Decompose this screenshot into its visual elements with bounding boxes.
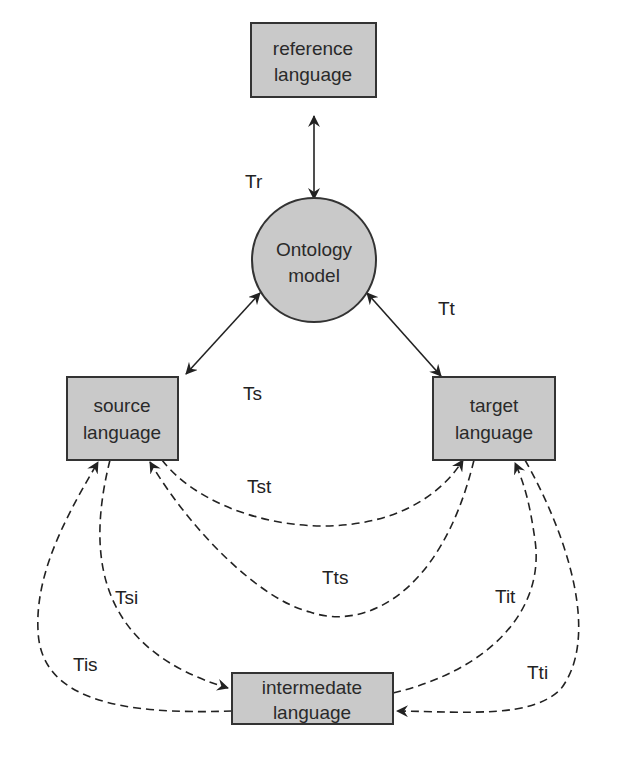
edge-tit bbox=[393, 463, 536, 693]
node-label-line2: language bbox=[274, 64, 352, 85]
node-label-line1: Ontology bbox=[276, 239, 353, 260]
edge-label-tts: Tts bbox=[322, 567, 348, 588]
edge-label-tsi: Tsi bbox=[115, 587, 138, 608]
node-label-line1: intermedate bbox=[262, 677, 362, 698]
node-intermediate-language: intermedate language bbox=[232, 673, 393, 724]
edge-tr: Tr bbox=[245, 116, 314, 199]
node-ontology-model: Ontology model bbox=[252, 198, 376, 322]
ontology-translation-diagram: Tr Ts Tt Tst Tts Tsi Tis Tit Tti referen… bbox=[0, 0, 618, 759]
edge-label-tit: Tit bbox=[495, 586, 516, 607]
edge-ts: Ts bbox=[186, 293, 262, 404]
edge-tt: Tt bbox=[367, 293, 456, 376]
node-label-line2: language bbox=[455, 422, 533, 443]
edge-tsi bbox=[100, 460, 228, 688]
edge-label-tti: Tti bbox=[527, 662, 548, 683]
edge-label-tst: Tst bbox=[247, 476, 272, 497]
edge-label-tr: Tr bbox=[245, 171, 263, 192]
node-reference-language: reference language bbox=[251, 23, 376, 97]
edge-tti bbox=[397, 460, 579, 712]
edge-label-ts: Ts bbox=[243, 383, 262, 404]
edge-tts bbox=[150, 460, 474, 617]
edge-label-tis: Tis bbox=[73, 654, 98, 675]
edge-label-tt: Tt bbox=[438, 298, 456, 319]
node-label-line2: language bbox=[273, 702, 351, 723]
edge-tst bbox=[162, 460, 463, 526]
node-label-line1: reference bbox=[273, 38, 353, 59]
node-source-language: source language bbox=[67, 377, 178, 460]
node-label-line1: target bbox=[470, 395, 519, 416]
node-label-line2: model bbox=[288, 265, 340, 286]
node-label-line1: source bbox=[93, 395, 150, 416]
node-label-line2: language bbox=[83, 422, 161, 443]
node-target-language: target language bbox=[433, 377, 555, 460]
